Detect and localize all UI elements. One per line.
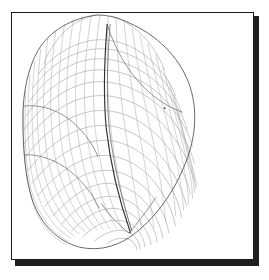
- figure-page: Structured curvilinear surface mesh Wire…: [0, 0, 269, 280]
- figure-frame: Structured curvilinear surface mesh Wire…: [11, 12, 254, 260]
- surface-mesh-plot: [12, 13, 253, 259]
